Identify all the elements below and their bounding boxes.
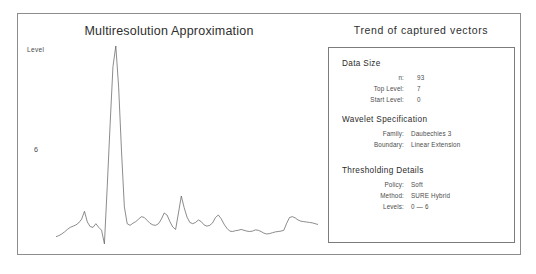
value-policy: Soft (404, 179, 423, 190)
label-top-level: Top Level: (329, 83, 404, 94)
value-top-level: 7 (404, 83, 421, 94)
label-policy: Policy: (329, 179, 404, 190)
chart-plot-area (56, 40, 318, 252)
row-family: Family: Daubechies 3 (329, 128, 516, 139)
value-start-level: 0 (404, 94, 421, 105)
wavelet-rows: Family: Daubechies 3 Boundary: Linear Ex… (329, 128, 516, 150)
row-start-level: Start Level: 0 (329, 94, 516, 105)
label-method: Method: (329, 190, 404, 201)
label-boundary: Boundary: (329, 139, 404, 150)
label-family: Family: (329, 128, 404, 139)
row-levels: Levels: 0 — 6 (329, 201, 516, 212)
trend-panel: Trend of captured vectors Data Size n: 9… (320, 14, 522, 254)
row-method: Method: SURE Hybrid (329, 190, 516, 201)
label-n: n: (329, 72, 404, 83)
section-thresholding-details: Thresholding Details Policy: Soft Method… (329, 166, 516, 212)
row-n: n: 93 (329, 72, 516, 83)
waveform-line-svg (56, 40, 318, 252)
value-levels: 0 — 6 (404, 201, 429, 212)
data-size-rows: n: 93 Top Level: 7 Start Level: 0 (329, 72, 516, 105)
section-data-size: Data Size n: 93 Top Level: 7 Start Level… (329, 59, 516, 105)
section-heading-wavelet-specification: Wavelet Specification (342, 115, 516, 124)
thresholding-rows: Policy: Soft Method: SURE Hybrid Levels:… (329, 179, 516, 212)
row-top-level: Top Level: 7 (329, 83, 516, 94)
chart-axis-label-level: Level (27, 46, 44, 53)
label-levels: Levels: (329, 201, 404, 212)
section-heading-data-size: Data Size (342, 59, 516, 68)
trend-panel-title: Trend of captured vectors (320, 24, 522, 36)
figure-outer-frame: Multiresolution Approximation Level 6 Tr… (17, 13, 521, 255)
value-n: 93 (404, 72, 424, 83)
section-wavelet-specification: Wavelet Specification Family: Daubechies… (329, 115, 516, 150)
chart-title: Multiresolution Approximation (18, 24, 320, 38)
multiresolution-chart-panel: Multiresolution Approximation Level 6 (18, 14, 320, 254)
figure-screen: Multiresolution Approximation Level 6 Tr… (0, 0, 536, 274)
chart-level-tick-6: 6 (34, 145, 38, 154)
waveform-polyline (56, 46, 318, 244)
row-policy: Policy: Soft (329, 179, 516, 190)
trend-info-box: Data Size n: 93 Top Level: 7 Start Level… (328, 47, 515, 243)
label-start-level: Start Level: (329, 94, 404, 105)
section-heading-thresholding-details: Thresholding Details (342, 166, 516, 175)
row-boundary: Boundary: Linear Extension (329, 139, 516, 150)
value-boundary: Linear Extension (404, 139, 460, 150)
value-method: SURE Hybrid (404, 190, 450, 201)
value-family: Daubechies 3 (404, 128, 451, 139)
